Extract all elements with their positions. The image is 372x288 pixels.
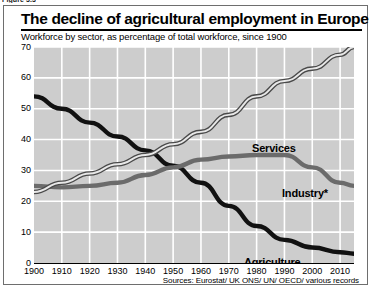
plot-area: Services Industry* Agriculture *Industry… [34,47,354,263]
sources-note: Sources: Eurostat/ UK ONS/ UN/ OECD/ var… [163,276,359,285]
y-axis-tick-70: 70 [9,43,31,52]
series-label-agriculture: Agriculture [244,256,300,263]
y-axis-tick-40: 40 [9,135,31,144]
y-axis-tick-20: 20 [9,197,31,206]
series-label-industry: Industry* [282,187,328,199]
x-axis-line [34,263,354,264]
y-axis-tick-10: 10 [9,228,31,237]
y-axis-tick-60: 60 [9,73,31,82]
chart-subtitle: Workforce by sector, as percentage of to… [21,31,361,43]
figure-frame: The decline of agricultural employment i… [3,5,368,285]
x-axis-tick-2010: 2010 [323,266,357,276]
series-label-services: Services [252,142,296,154]
y-axis-labels: 010203040506070 [7,47,31,263]
y-axis-tick-30: 30 [9,166,31,175]
figure-caption: Figure 3.3 [2,0,36,3]
y-axis-tick-50: 50 [9,104,31,113]
chart-plot-svg [34,47,354,263]
chart-title: The decline of agricultural employment i… [21,10,353,28]
